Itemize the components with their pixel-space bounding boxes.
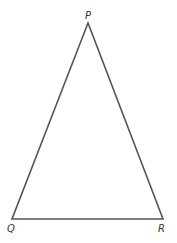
triangle-diagram: P Q R [0, 0, 177, 243]
vertex-label-r: R [158, 223, 165, 234]
vertex-label-p: P [85, 10, 92, 21]
triangle-pqr [12, 23, 163, 219]
vertex-label-q: Q [7, 223, 15, 234]
